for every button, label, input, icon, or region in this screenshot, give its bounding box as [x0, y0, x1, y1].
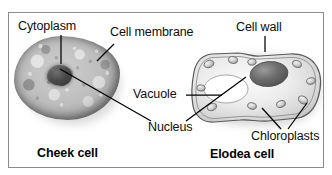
label-cell-wall: Cell wall — [236, 21, 282, 34]
label-cell-membrane: Cell membrane — [110, 26, 193, 39]
label-nucleus: Nucleus — [148, 121, 192, 134]
figure-canvas: Cytoplasm Cell membrane Cell wall Vacuol… — [0, 0, 332, 175]
cheek-cell-nucleus — [47, 65, 72, 86]
caption-cheek-cell: Cheek cell — [37, 147, 98, 160]
elodea-vacuole — [204, 75, 248, 103]
label-chloroplasts: Chloroplasts — [251, 130, 319, 143]
elodea-cell — [186, 42, 328, 134]
label-cytoplasm: Cytoplasm — [18, 20, 76, 33]
cheek-cell — [14, 36, 126, 128]
elodea-cell-drawing — [186, 42, 328, 134]
chloroplast — [196, 84, 205, 91]
label-vacuole: Vacuole — [133, 88, 177, 101]
caption-elodea-cell: Elodea cell — [210, 148, 274, 161]
